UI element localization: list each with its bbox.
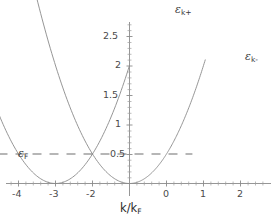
curve-epsilon-k-minus-right [130, 60, 206, 184]
x-tick-label-0: 0 [163, 189, 169, 199]
plot-canvas [0, 0, 275, 223]
x-axis-title: k/kF [120, 203, 142, 216]
x-tick-label-neg3: -3 [49, 189, 58, 199]
curve-label-epsilon-k-plus: εk+ [175, 4, 192, 17]
x-axis-title-main: k/k [120, 201, 137, 215]
y-tick-label-2: 2 [115, 60, 121, 70]
y-tick-label-0-5: 0.5 [110, 149, 125, 159]
dispersion-relation-plot: 2.5 2 1.5 1 0.5 -4 -3 -2 0 1 2 k/kF εk+ … [0, 0, 275, 223]
y-tick-label-2-5: 2.5 [103, 31, 118, 41]
epsilon-subscript-minus: k- [251, 55, 258, 64]
x-tick-label-neg2: -2 [86, 189, 95, 199]
x-tick-label-2: 2 [237, 189, 243, 199]
fermi-level-label: εF [18, 148, 28, 161]
x-tick-label-neg4: -4 [12, 189, 21, 199]
y-tick-label-1-5: 1.5 [103, 90, 118, 100]
x-axis-title-sub: F [137, 207, 141, 216]
y-tick-label-1: 1 [115, 119, 121, 129]
epsilon-subscript-plus: k+ [181, 8, 192, 17]
epsilon-subscript-fermi: F [24, 152, 28, 161]
curve-label-epsilon-k-minus: εk- [245, 51, 258, 64]
x-tick-label-1: 1 [200, 189, 206, 199]
